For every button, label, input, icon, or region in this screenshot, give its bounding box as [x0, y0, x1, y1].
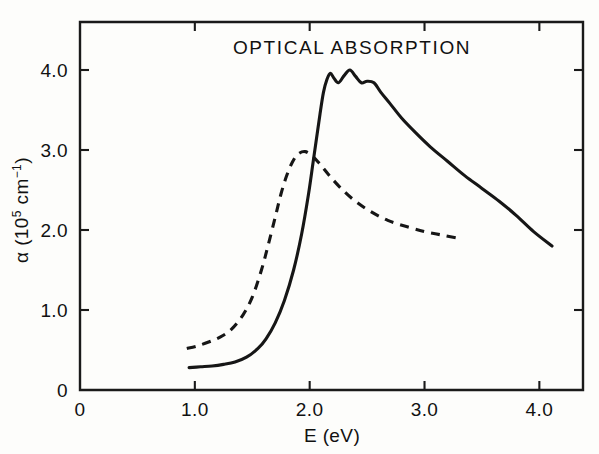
x-tick-label: 3.0	[411, 399, 439, 420]
chart-title: OPTICAL ABSORPTION	[233, 37, 471, 58]
x-tick-labels: 01.02.03.04.0	[75, 399, 554, 420]
y-tick-label: 2.0	[40, 220, 68, 241]
y-tick-label: 3.0	[40, 140, 68, 161]
x-axis-title-group: E (eV)	[304, 425, 360, 446]
y-axis-title-group: α (105 cm−1)	[10, 157, 32, 263]
y-axis-label-exponent-2: −1	[10, 164, 24, 178]
figure-container: 01.02.03.04.0 01.02.03.04.0 E (eV) α (10…	[0, 0, 599, 454]
optical-absorption-chart: 01.02.03.04.0 01.02.03.04.0 E (eV) α (10…	[0, 0, 599, 454]
solid-absorption-curve	[189, 70, 552, 368]
x-tick-label: 2.0	[296, 399, 324, 420]
y-axis-label-exponent-1: 5	[10, 210, 24, 217]
data-curves-group	[187, 70, 552, 368]
x-axis-label: E (eV)	[304, 425, 360, 446]
y-axis-label-close: )	[11, 157, 32, 164]
y-axis-label: α (105 cm−1)	[10, 157, 32, 263]
y-tick-label: 0	[57, 380, 68, 401]
x-tick-label: 0	[75, 399, 86, 420]
y-tick-labels: 01.02.03.04.0	[40, 60, 68, 401]
y-axis-label-unit: cm	[11, 178, 32, 210]
x-tick-label: 1.0	[181, 399, 209, 420]
chart-title-group: OPTICAL ABSORPTION	[233, 37, 471, 58]
dashed-absorption-curve	[187, 152, 457, 349]
y-tick-label: 4.0	[40, 60, 68, 81]
y-tick-label: 1.0	[40, 300, 68, 321]
y-axis-label-symbol: α	[11, 252, 32, 263]
y-axis-label-open: (10	[11, 217, 32, 251]
x-tick-label: 4.0	[526, 399, 554, 420]
